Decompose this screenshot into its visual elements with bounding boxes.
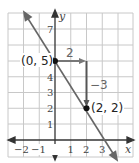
y-axis-label: y	[58, 10, 66, 23]
y-tick-label: 1	[47, 119, 53, 130]
x-tick-label: 1	[68, 144, 74, 155]
rise-arrow	[84, 61, 90, 107]
y-tick-label: 2	[47, 103, 53, 114]
x-tick-label: 3	[99, 144, 105, 155]
point-2-2	[84, 105, 90, 111]
coordinate-graph: −2 −1 1 2 3 x 1 2 3 4 7 y 2 −3 (0, 5) (2…	[0, 0, 139, 163]
rise-label: −3	[90, 78, 108, 92]
point-label-0-5: (0, 5)	[21, 54, 53, 68]
y-tick-label: 4	[47, 72, 53, 83]
y-tick-label: 3	[47, 87, 53, 98]
x-tick-label: 2	[83, 144, 89, 155]
run-label: 2	[66, 46, 74, 60]
x-axis-label: x	[125, 143, 132, 156]
x-tick-label: −1	[31, 144, 46, 155]
point-label-2-2: (2, 2)	[91, 101, 123, 115]
x-tick-label: −2	[14, 144, 29, 155]
y-tick-label: 7	[47, 24, 53, 35]
